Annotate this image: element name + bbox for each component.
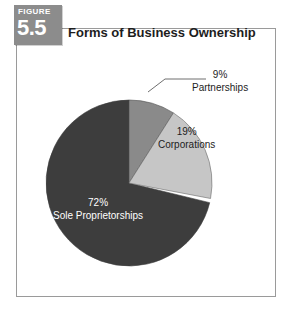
pie-chart: 9% Partnerships 19% Corporations 72% Sol… <box>16 28 276 297</box>
pie-label-partnerships: 9% Partnerships <box>192 68 248 94</box>
pie-label-corporations-name: Corporations <box>158 138 215 151</box>
pie-label-sole-proprietorships-name: Sole Proprietorships <box>53 209 143 222</box>
pie-label-corporations-percent: 19% <box>158 125 215 138</box>
pie-label-partnerships-name: Partnerships <box>192 81 248 94</box>
pie-label-sole-proprietorships-percent: 72% <box>53 196 143 209</box>
figure-number-badge: FIGURE 5.5 <box>14 5 62 45</box>
figure-title: Forms of Business Ownership <box>68 24 256 41</box>
pie-label-sole-proprietorships: 72% Sole Proprietorships <box>53 196 143 222</box>
figure-container: FIGURE 5.5 Forms of Business Ownership 9… <box>0 0 288 310</box>
pie-label-corporations: 19% Corporations <box>158 125 215 151</box>
pie-label-partnerships-percent: 9% <box>192 68 248 81</box>
figure-badge-number: 5.5 <box>17 15 46 41</box>
